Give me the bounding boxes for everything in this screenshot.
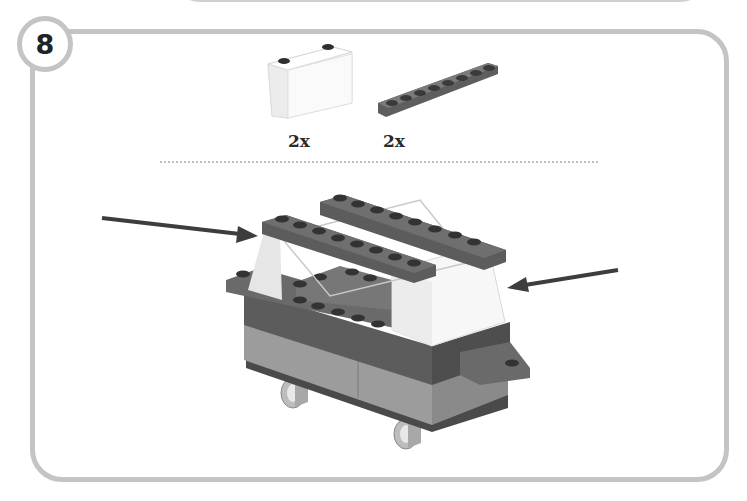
assembly-illustration — [0, 0, 747, 501]
arrow-right-icon — [102, 218, 258, 243]
arrow-left-icon — [507, 270, 618, 292]
lego-vehicle-model — [226, 195, 530, 450]
